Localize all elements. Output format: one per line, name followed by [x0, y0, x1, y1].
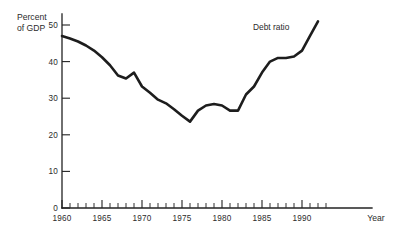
x-tick-label-1990: 1990	[292, 214, 311, 223]
series-annotation-debt-ratio: Debt ratio	[253, 22, 290, 32]
x-tick-label-1970: 1970	[132, 214, 151, 223]
x-tick-label-1960: 1960	[52, 214, 71, 223]
y-axis-ticks	[62, 25, 70, 208]
y-axis-caption-line1: Percent	[17, 12, 47, 22]
axes-group	[62, 14, 372, 208]
y-axis-tick-labels: 50 40 30 20 10 0	[48, 21, 58, 213]
x-tick-label-1980: 1980	[212, 214, 231, 223]
y-tick-label-0: 0	[53, 204, 58, 213]
y-axis-caption-line2: of GDP	[17, 23, 45, 33]
x-axis-tick-labels: 1960 1965 1970 1975 1980 1985 1990	[52, 214, 311, 223]
y-tick-label-20: 20	[48, 131, 58, 140]
x-tick-label-1965: 1965	[92, 214, 111, 223]
debt-ratio-chart: 50 40 30 20 10 0 Percent of GDP	[0, 0, 399, 239]
y-tick-label-40: 40	[48, 58, 58, 67]
x-axis-minor-ticks	[70, 203, 326, 208]
y-tick-label-10: 10	[48, 167, 58, 176]
series-line-debt-ratio	[62, 21, 318, 121]
y-axis-caption: Percent of GDP	[17, 12, 47, 33]
x-tick-label-1985: 1985	[252, 214, 271, 223]
chart-canvas: 50 40 30 20 10 0 Percent of GDP	[0, 0, 399, 239]
y-tick-label-50: 50	[48, 21, 58, 30]
x-axis-major-ticks	[62, 200, 302, 208]
x-axis-caption: Year	[367, 213, 385, 223]
x-tick-label-1975: 1975	[172, 214, 191, 223]
y-tick-label-30: 30	[48, 94, 58, 103]
